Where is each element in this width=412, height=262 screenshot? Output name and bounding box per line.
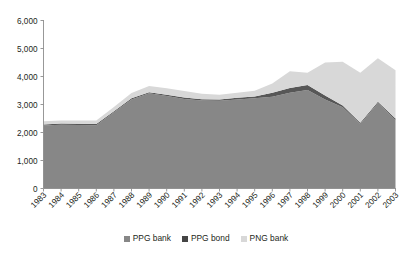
- x-axis-tick-label: 1985: [64, 190, 84, 210]
- legend-item-png-bank: PNG bank: [241, 234, 289, 243]
- y-axis-tick-label: 2,000: [17, 129, 38, 138]
- legend-label: PNG bank: [250, 234, 289, 243]
- x-axis-tick-label: 2000: [328, 190, 348, 210]
- chart-legend: PPG bank PPG bond PNG bank: [0, 234, 412, 243]
- stacked-area-chart: 01,0002,0003,0004,0005,0006,000 19831984…: [0, 0, 412, 262]
- y-axis-tick-label: 1,000: [17, 157, 38, 166]
- x-axis-tick-label: 1984: [47, 190, 67, 210]
- x-axis-tick-label: 2001: [346, 190, 366, 210]
- legend-swatch-icon: [182, 236, 188, 242]
- x-axis-tick-label: 1996: [258, 190, 278, 210]
- x-axis-tick-label: 1995: [240, 190, 260, 210]
- legend-swatch-icon: [124, 236, 130, 242]
- x-axis-tick-label: 1989: [135, 190, 155, 210]
- x-axis-tick-label: 1986: [82, 190, 102, 210]
- x-axis: 1983198419851986198719881989199019911992…: [29, 189, 401, 210]
- chart-container: 01,0002,0003,0004,0005,0006,000 19831984…: [0, 0, 412, 262]
- y-axis-tick-label: 3,000: [17, 101, 38, 110]
- y-axis-tick-label: 4,000: [17, 73, 38, 82]
- y-axis-tick-label: 0: [33, 185, 38, 194]
- x-axis-tick-label: 1990: [152, 190, 172, 210]
- legend-item-ppg-bank: PPG bank: [124, 234, 171, 243]
- x-axis-tick-label: 1999: [311, 190, 331, 210]
- x-axis-tick-label: 1991: [170, 190, 190, 210]
- x-axis-tick-label: 1994: [223, 190, 243, 210]
- y-axis-tick-label: 5,000: [17, 45, 38, 54]
- x-axis-tick-label: 1988: [117, 190, 137, 210]
- y-axis: 01,0002,0003,0004,0005,0006,000: [17, 17, 44, 194]
- x-axis-tick-label: 1992: [188, 190, 208, 210]
- x-axis-tick-label: 2002: [364, 190, 384, 210]
- legend-label: PPG bond: [191, 234, 230, 243]
- x-axis-tick-label: 1997: [276, 190, 296, 210]
- plot-areas: [44, 58, 396, 188]
- x-axis-tick-label: 1993: [205, 190, 225, 210]
- y-axis-tick-label: 6,000: [17, 17, 38, 26]
- legend-swatch-icon: [241, 236, 247, 242]
- legend-label: PPG bank: [133, 234, 171, 243]
- x-axis-tick-label: 1987: [100, 190, 120, 210]
- legend-item-ppg-bond: PPG bond: [182, 234, 230, 243]
- x-axis-tick-label: 1998: [293, 190, 313, 210]
- x-axis-tick-label: 2003: [381, 190, 401, 210]
